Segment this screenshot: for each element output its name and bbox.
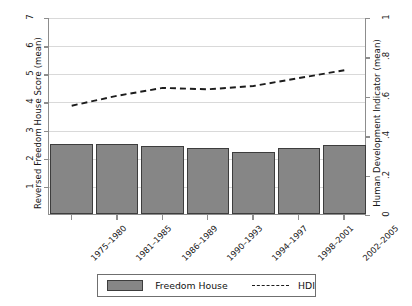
x-axis-tick bbox=[116, 215, 117, 220]
legend-label-freedom-house: Freedom House bbox=[155, 280, 227, 291]
x-axis-tick bbox=[71, 215, 72, 220]
x-axis-tick-label: 1990–1993 bbox=[225, 223, 265, 263]
x-axis-tick-label: 1975–1980 bbox=[88, 223, 128, 263]
x-axis-tick bbox=[252, 215, 253, 220]
x-axis-tick bbox=[298, 215, 299, 220]
y-axis-left-tick-label: 6 bbox=[25, 34, 35, 56]
x-axis-tick-label: 1998–2001 bbox=[315, 223, 355, 263]
hdi-line bbox=[72, 70, 345, 106]
x-axis-tick bbox=[207, 215, 208, 220]
y-axis-right-tick-label: .4 bbox=[381, 124, 391, 146]
legend-label-hdi: HDI bbox=[298, 280, 315, 291]
y-axis-right-tick-label: 1 bbox=[381, 6, 391, 28]
y-axis-left-tick-label: 2 bbox=[25, 147, 35, 169]
legend-dash-hdi bbox=[252, 285, 289, 286]
y-axis-right-tick-label: .6 bbox=[381, 85, 391, 107]
y-axis-left-tick-label: 3 bbox=[25, 119, 35, 141]
y-axis-right-tick-label: .8 bbox=[381, 45, 391, 67]
y-axis-right-tick bbox=[365, 215, 370, 216]
y-axis-left-tick-label: 1 bbox=[25, 175, 35, 197]
y-axis-left-tick-label: 7 bbox=[25, 6, 35, 28]
y-axis-left-tick-label: 4 bbox=[25, 90, 35, 112]
chart-root: Reversed Freedom House Score (mean) Huma… bbox=[0, 0, 412, 306]
legend-swatch-freedom-house bbox=[107, 280, 143, 291]
x-axis-tick-label: 2002–2005 bbox=[361, 223, 401, 263]
x-axis-tick-label: 1986–1989 bbox=[179, 223, 219, 263]
x-axis-tick bbox=[162, 215, 163, 220]
y-axis-left-tick-label: 5 bbox=[25, 62, 35, 84]
y-axis-right-tick-label: 0 bbox=[381, 203, 391, 225]
y-axis-right-tick-label: .2 bbox=[381, 164, 391, 186]
chart-legend: Freedom House HDI bbox=[97, 274, 316, 297]
x-axis-tick-label: 1981–1985 bbox=[134, 223, 174, 263]
x-axis-tick-label: 1994–1997 bbox=[270, 223, 310, 263]
plot-area: 1234567 0.2.4.6.81 bbox=[48, 18, 366, 215]
x-axis-tick bbox=[343, 215, 344, 220]
line-series-hdi bbox=[49, 18, 367, 215]
